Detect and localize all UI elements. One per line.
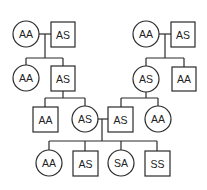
genotype-label: AA <box>139 28 153 40</box>
genotype-label: SA <box>114 157 128 169</box>
female-node-g4-1: AA <box>36 150 62 176</box>
female-node-g3-left: AS <box>72 106 98 132</box>
male-node-g1-right: AS <box>171 22 195 47</box>
genotype-label: AS <box>56 29 70 41</box>
male-node-g4-2: AS <box>73 151 98 176</box>
female-node-g2-right: AS <box>133 66 159 92</box>
male-node-g2-right: AA <box>172 67 196 91</box>
genotype-label: AS <box>176 29 190 41</box>
male-node-g3-left: AA <box>33 107 58 132</box>
genotype-label: AS <box>56 73 70 85</box>
genotype-label: AS <box>78 158 92 170</box>
female-node-g4-3: SA <box>108 150 134 176</box>
genotype-label: AS <box>113 114 127 126</box>
genotype-label: AA <box>19 28 33 40</box>
female-node-g1-right: AA <box>133 21 159 47</box>
female-node-g2-left: AA <box>13 65 39 91</box>
genotype-label: AA <box>38 114 52 126</box>
genotype-label: AS <box>78 113 92 125</box>
male-node-g2-left: AS <box>51 66 75 91</box>
genotype-label: AA <box>151 113 165 125</box>
male-node-g4-4: SS <box>145 151 170 176</box>
genotype-label: SS <box>150 158 164 170</box>
genotype-label: AA <box>177 73 191 85</box>
female-node-g3-right: AA <box>145 106 171 132</box>
genotype-label: AA <box>42 157 56 169</box>
male-node-g3-right: AS <box>108 107 133 132</box>
genotype-label: AS <box>139 73 153 85</box>
genotype-label: AA <box>19 72 33 84</box>
female-node-g1-left: AA <box>13 21 39 47</box>
male-node-g1-left: AS <box>51 22 75 47</box>
pedigree-chart: AA AS AA AS AA AS AS AA AA AS AS <box>0 0 207 190</box>
